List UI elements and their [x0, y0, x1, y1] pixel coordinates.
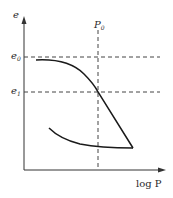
x-axis-label-text: log P [136, 178, 162, 189]
y-axis-arrow-icon [22, 16, 27, 24]
diagram-canvas [0, 0, 173, 198]
e1-label: e1 [11, 86, 21, 97]
x-axis-arrow-icon [158, 168, 166, 173]
e0-label-sub: 0 [17, 55, 21, 62]
y-axis-label-text: e [13, 9, 19, 20]
e1-label-sub: 1 [17, 90, 21, 97]
p0-label-sub: 0 [101, 24, 105, 31]
p0-label-main: P [94, 19, 101, 30]
rebound-curve [49, 128, 133, 148]
e0-label: e0 [11, 51, 21, 62]
p0-label: P0 [94, 20, 105, 31]
e-logp-diagram: e e0 e1 P0 log P [0, 0, 173, 198]
y-axis-label: e [13, 10, 19, 20]
loading-curve [36, 60, 133, 148]
x-axis-label: log P [136, 179, 162, 189]
